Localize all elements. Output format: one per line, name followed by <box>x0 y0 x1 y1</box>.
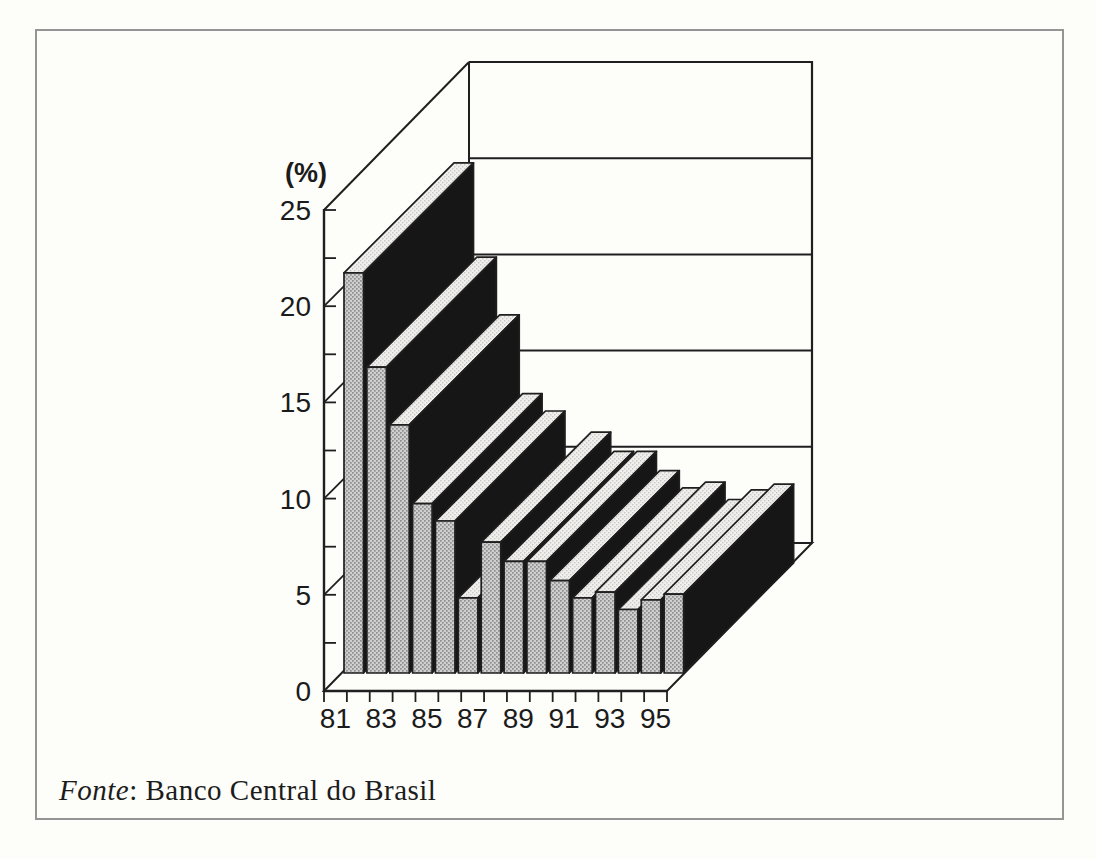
y-tick-label-0: 0 <box>295 676 311 707</box>
bar-front-face <box>458 598 478 673</box>
x-tick-label-93: 93 <box>594 703 625 734</box>
source-text: : Banco Central do Brasil <box>129 774 436 806</box>
x-tick-label-85: 85 <box>411 703 442 734</box>
bar-front-face <box>664 594 684 673</box>
x-tick-label-95: 95 <box>640 703 671 734</box>
bar-front-face <box>618 610 638 673</box>
y-tick-label-10: 10 <box>280 484 311 515</box>
y-tick-label-5: 5 <box>295 580 311 611</box>
y-tick-label-20: 20 <box>280 291 311 322</box>
bar-front-face <box>367 367 387 673</box>
bar-front-face <box>481 542 501 673</box>
bar-front-face <box>596 592 616 673</box>
bar-front-face <box>527 561 547 673</box>
x-tick-label-91: 91 <box>549 703 580 734</box>
y-tick-label-15: 15 <box>280 387 311 418</box>
x-tick-label-83: 83 <box>366 703 397 734</box>
bar-front-face <box>344 273 364 673</box>
x-tick-label-89: 89 <box>503 703 534 734</box>
y-axis-unit-label: (%) <box>285 158 327 188</box>
bar-front-face <box>504 561 523 673</box>
bar-front-face <box>413 504 433 673</box>
bar-front-face <box>573 598 593 673</box>
x-tick-label-81: 81 <box>320 703 351 734</box>
source-note: Fonte: Banco Central do Brasil <box>59 774 436 807</box>
bar-front-face <box>435 521 455 673</box>
x-tick-label-87: 87 <box>457 703 488 734</box>
bar-front-face <box>550 581 570 673</box>
y-tick-label-25: 25 <box>280 195 311 226</box>
bar-front-face <box>641 600 661 673</box>
bar-chart-3d: (%) 05101520258183858789919395 <box>0 0 1096 859</box>
source-label: Fonte <box>59 774 129 806</box>
bar-front-face <box>390 425 410 673</box>
